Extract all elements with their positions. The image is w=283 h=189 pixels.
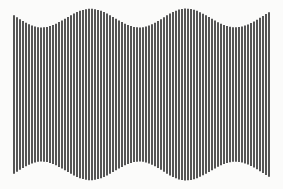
bar-pattern-svg [0, 0, 283, 189]
bar-pattern-figure [0, 0, 283, 189]
figure-background [0, 0, 283, 189]
